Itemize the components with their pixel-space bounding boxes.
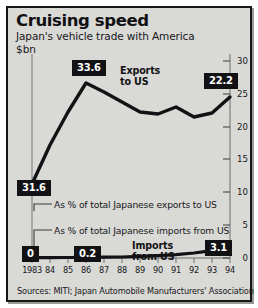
callout-imports-1983: 0 [22,246,39,262]
x-axis-tick-93: 93 [204,266,220,274]
series-label-exports-line1: Exports [120,65,160,76]
series-line-imports-from-us [32,247,230,258]
chart-source-note: Sources: MITI; Japan Automobile Manufact… [17,287,254,295]
y-axis-tick-30: 30 [232,57,248,66]
series-label-exports-to-us: Exports to US [120,66,160,87]
x-axis-tick-87: 87 [96,266,112,274]
callout-exports-1994: 22.2 [204,73,238,89]
chart-figure: Cruising speed Japan's vehicle trade wit… [6,6,252,302]
leader-line-annotation-exports [34,204,52,211]
callout-exports-1986-peak: 33.6 [72,60,106,76]
callout-imports-1986: 0.2 [74,246,101,262]
x-axis-tick-91: 91 [168,266,184,274]
y-axis-tick-20: 20 [232,123,248,132]
plot-area [8,8,254,304]
annotation-exports-share-note: As % of total Japanese exports to US [54,200,217,209]
y-axis-tick-25: 25 [232,90,248,99]
x-axis-tick-94: 94 [222,266,238,274]
x-axis-tick-90: 90 [150,266,166,274]
y-axis-tick-5: 5 [232,221,248,230]
x-axis-tick-85: 85 [60,266,76,274]
x-axis-tick-88: 88 [114,266,130,274]
callout-exports-1983: 31.6 [17,180,51,196]
y-axis-tick-10: 10 [232,188,248,197]
series-label-imports-line1: Imports [132,240,173,251]
series-line-exports-to-us [32,83,230,184]
callout-imports-1994: 3.1 [205,240,232,256]
series-label-imports-from-us: Imports from US [132,241,174,262]
x-axis-tick-89: 89 [132,266,148,274]
y-axis-tick-15: 15 [232,155,248,164]
series-label-imports-line2: from US [132,251,174,262]
x-axis-tick-92: 92 [186,266,202,274]
x-axis-tick-86: 86 [78,266,94,274]
annotation-imports-share-note: As % of total Japanese imports from US [54,226,229,235]
x-axis-tick-84: 84 [42,266,58,274]
series-label-exports-line2: to US [120,76,148,87]
y-axis-tick-0: 0 [232,254,248,263]
